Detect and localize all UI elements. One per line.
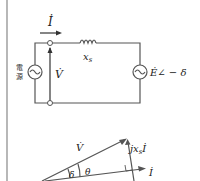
current-arrowhead (56, 31, 62, 36)
ac-wave-icon (30, 70, 40, 74)
terminal-node (48, 101, 53, 106)
phasor-voltage-label: V̇ (76, 142, 85, 153)
terminal-node (48, 41, 53, 46)
top-left-wire (35, 43, 80, 65)
phasor-diagram (42, 140, 142, 181)
generator-circuit-diagram: İ xs V̇ 電 源 Ė∠ − δ V̇ jxsİ İ δ θ (0, 0, 200, 181)
phasor-current-label: İ (148, 167, 154, 178)
source-label-2: 源 (16, 72, 23, 81)
voltage-label: V̇ (55, 68, 64, 81)
theta-arc (78, 164, 80, 177)
ac-wave-icon (135, 70, 145, 74)
inductor-coil (80, 40, 96, 43)
delta-label: δ (69, 170, 74, 180)
top-right-wire (96, 43, 140, 65)
drop-label: jxsİ (128, 143, 147, 156)
current-label: İ (47, 14, 53, 29)
emf-label: Ė∠ − δ (149, 67, 186, 78)
current-phasor-arrowhead (138, 166, 146, 172)
circuit (28, 40, 147, 103)
source-label-1: 電 (16, 64, 23, 72)
voltage-arrowhead (48, 47, 53, 53)
reactance-label: xs (83, 51, 93, 64)
bottom-wire (35, 79, 140, 103)
theta-label: θ (85, 167, 91, 177)
